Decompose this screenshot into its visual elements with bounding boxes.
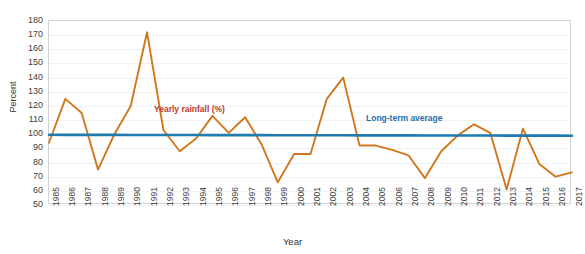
y-axis-tick: 150 bbox=[28, 58, 43, 67]
x-axis-tick: 2013 bbox=[509, 187, 518, 206]
y-axis-tick: 110 bbox=[29, 115, 43, 124]
rainfall-line-chart: Percent 18017016015014013012011010090807… bbox=[0, 0, 585, 254]
x-axis-tick: 1996 bbox=[231, 187, 240, 206]
x-axis-tick: 1997 bbox=[248, 187, 257, 206]
x-axis-tick: 1992 bbox=[166, 187, 175, 206]
y-axis-tick: 160 bbox=[28, 44, 43, 53]
x-axis-tick: 1998 bbox=[264, 187, 273, 206]
x-axis-tick: 2004 bbox=[362, 187, 371, 206]
y-axis-tick: 70 bbox=[33, 171, 43, 180]
series-label-yearly-rainfall: Yearly rainfall (%) bbox=[154, 104, 225, 114]
x-axis-tick: 1985 bbox=[52, 187, 61, 206]
y-axis-tick: 140 bbox=[28, 72, 43, 81]
x-axis-tick: 2001 bbox=[313, 187, 322, 206]
y-axis-tick: 180 bbox=[28, 16, 43, 25]
y-axis-tick: 120 bbox=[28, 100, 43, 109]
x-axis-tick: 1999 bbox=[280, 187, 289, 206]
y-axis-tick: 130 bbox=[28, 86, 43, 95]
x-axis-tick: 2002 bbox=[329, 187, 338, 206]
x-axis-tick: 2011 bbox=[476, 188, 485, 206]
y-axis-tick: 100 bbox=[28, 129, 43, 138]
y-axis-tick: 50 bbox=[33, 200, 43, 209]
x-axis-tick: 1988 bbox=[101, 187, 110, 206]
x-axis-tick: 2007 bbox=[411, 187, 420, 206]
x-axis-tick: 2009 bbox=[444, 187, 453, 206]
x-axis-tick: 1989 bbox=[117, 187, 126, 206]
plot-area bbox=[48, 20, 571, 204]
x-axis-tick: 1986 bbox=[68, 187, 77, 206]
x-axis-tick: 2014 bbox=[525, 187, 534, 206]
y-axis-tick: 60 bbox=[33, 185, 43, 194]
x-axis-tick: 2010 bbox=[460, 187, 469, 206]
y-axis-tick: 170 bbox=[28, 30, 43, 39]
series-line-yearly-rainfall bbox=[49, 32, 572, 189]
x-axis-tick: 1990 bbox=[133, 187, 142, 206]
x-axis-tick: 2008 bbox=[427, 187, 436, 206]
series-label-long-term-average: Long-term average bbox=[366, 113, 443, 123]
series-layer bbox=[49, 21, 572, 205]
x-axis-tick: 2015 bbox=[542, 187, 551, 206]
x-axis-tick: 2003 bbox=[346, 187, 355, 206]
series-line-long-term-average bbox=[49, 135, 572, 136]
x-axis-tick: 1995 bbox=[215, 187, 224, 206]
y-axis-tick: 90 bbox=[33, 143, 43, 152]
x-axis-tick: 1991 bbox=[150, 187, 159, 206]
x-axis-tick: 2017 bbox=[575, 187, 584, 206]
x-axis-tick: 2005 bbox=[378, 187, 387, 206]
x-axis-tick-labels: 1985198619871988198919901991199219931994… bbox=[48, 206, 571, 240]
x-axis-tick: 1987 bbox=[84, 187, 93, 206]
x-axis-title: Year bbox=[0, 236, 585, 247]
x-axis-tick: 1994 bbox=[199, 187, 208, 206]
x-axis-tick: 2006 bbox=[395, 187, 404, 206]
y-axis-tick: 80 bbox=[33, 157, 43, 166]
x-axis-tick: 2000 bbox=[297, 187, 306, 206]
x-axis-tick: 2012 bbox=[493, 187, 502, 206]
y-axis-tick-labels: 1801701601501401301201101009080706050 bbox=[0, 0, 48, 254]
x-axis-tick: 1993 bbox=[182, 187, 191, 206]
x-axis-tick: 2016 bbox=[558, 187, 567, 206]
